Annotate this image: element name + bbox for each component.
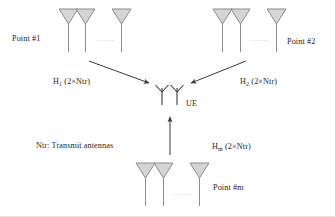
antenna-icon	[59, 9, 78, 52]
ellipsis-point2: ······	[250, 38, 269, 45]
antenna-icon	[154, 163, 173, 206]
ellipsis-point1: ······	[95, 38, 114, 45]
link-arrow-h1	[89, 61, 149, 83]
hm-subscript: m	[218, 146, 223, 152]
h2-dimensions: (2×Ntr)	[249, 77, 277, 86]
antenna-icon	[267, 9, 286, 52]
h1-dimensions: (2×Ntr)	[62, 77, 90, 86]
link-arrow-h2	[191, 61, 246, 83]
label-pointm: Point #m	[213, 184, 244, 192]
figure-canvas: ······ ······ ······ Point #1 Point #2 P…	[0, 0, 335, 217]
antenna-group-point1	[59, 9, 131, 52]
label-legend-ntr: Ntr: Transmit antennas	[36, 142, 113, 150]
label-channel-h2: H2 (2×Ntr)	[240, 78, 277, 86]
ue-receiver	[156, 85, 184, 105]
antenna-group-pointm	[136, 163, 209, 206]
antenna-icon	[231, 9, 250, 52]
antenna-icon	[213, 9, 232, 52]
label-ue: UE	[186, 100, 197, 108]
h2-subscript: 2	[246, 81, 249, 87]
antenna-icon	[112, 9, 131, 52]
label-point1: Point #1	[12, 35, 40, 43]
hm-dimensions: (2×Ntr)	[223, 142, 251, 151]
label-channel-hm: Hm (2×Ntr)	[212, 143, 251, 151]
h1-subscript: 1	[59, 81, 62, 87]
antenna-group-point2	[213, 9, 286, 52]
label-point2: Point #2	[287, 38, 315, 46]
diagram-graphics	[0, 0, 335, 217]
label-channel-h1: H1 (2×Ntr)	[53, 78, 90, 86]
ellipsis-pointm: ······	[173, 192, 192, 199]
antenna-icon	[76, 9, 95, 52]
ue-antenna-icon	[156, 85, 169, 105]
antenna-icon	[136, 163, 155, 206]
antenna-icon	[190, 163, 209, 206]
ue-antenna-icon	[171, 85, 184, 105]
